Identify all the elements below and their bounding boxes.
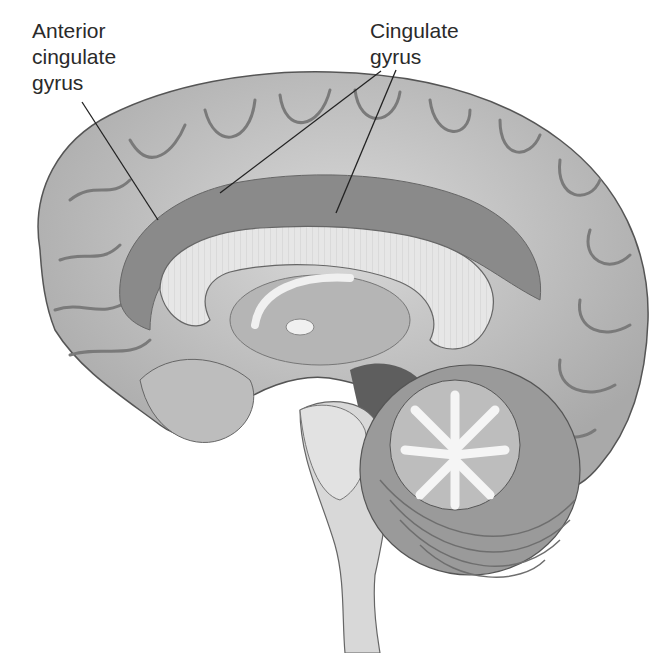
cerebellum: [360, 365, 580, 577]
label-cingulate-gyrus: Cingulate gyrus: [370, 18, 459, 70]
label-line: gyrus: [32, 70, 116, 96]
temporal-lobe: [140, 359, 254, 442]
label-line: gyrus: [370, 44, 459, 70]
label-line: Cingulate: [370, 18, 459, 44]
label-line: cingulate: [32, 44, 116, 70]
label-anterior-cingulate-gyrus: Anterior cingulate gyrus: [32, 18, 116, 96]
label-line: Anterior: [32, 18, 116, 44]
interthalamic-adhesion: [286, 319, 314, 335]
brain-illustration: [0, 0, 663, 653]
